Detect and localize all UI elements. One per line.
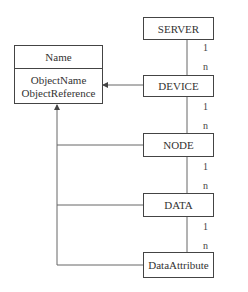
device-box: DEVICE bbox=[143, 75, 214, 97]
cardinality-label: n bbox=[203, 240, 208, 251]
dataattribute-box: DataAttribute bbox=[143, 252, 214, 278]
attribute-object-reference: ObjectReference bbox=[22, 87, 96, 100]
node-box: NODE bbox=[143, 133, 214, 157]
cardinality-label: n bbox=[203, 180, 208, 191]
cardinality-label: n bbox=[203, 120, 208, 131]
cardinality-label: 1 bbox=[203, 101, 208, 112]
cardinality-label: 1 bbox=[203, 42, 208, 53]
cardinality-label: 1 bbox=[203, 161, 208, 172]
name-class-title: Name bbox=[15, 46, 102, 69]
attribute-object-name: ObjectName bbox=[31, 74, 87, 87]
server-box: SERVER bbox=[143, 17, 214, 40]
name-class-attributes: ObjectName ObjectReference bbox=[15, 69, 102, 104]
cardinality-label: 1 bbox=[203, 221, 208, 232]
data-box: DATA bbox=[143, 193, 214, 217]
cardinality-label: n bbox=[203, 61, 208, 72]
name-class-box: Name ObjectName ObjectReference bbox=[14, 45, 103, 104]
